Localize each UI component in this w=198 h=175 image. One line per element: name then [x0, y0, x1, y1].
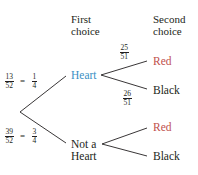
- header-second-choice: Second choice: [153, 13, 185, 37]
- prob-not-heart-fraction: 39 52: [5, 128, 14, 145]
- prob-heart-red: 25 51: [120, 44, 129, 61]
- branch-notheart-black: [102, 144, 147, 156]
- node-notheart-red: Red: [153, 121, 172, 133]
- branch-notheart-red: [102, 128, 147, 144]
- denominator: 52: [6, 82, 14, 90]
- prob-heart-black: 26 51: [123, 90, 132, 107]
- prob-not-heart-simplified: 3 4: [32, 128, 37, 145]
- node-not-heart-line2: Heart: [71, 150, 97, 162]
- denominator: 51: [124, 99, 132, 107]
- header-first-line1: First: [71, 13, 100, 25]
- node-heart-red: Red: [153, 55, 172, 67]
- denominator: 52: [6, 137, 14, 145]
- header-second-line1: Second: [153, 13, 185, 25]
- equals-sign: =: [20, 76, 25, 86]
- header-first-choice: First choice: [71, 13, 100, 37]
- node-heart-black: Black: [153, 84, 180, 96]
- branch-root-not-heart: [20, 112, 66, 143]
- node-not-heart: Not a Heart: [71, 138, 97, 162]
- branch-heart-red: [101, 61, 147, 75]
- header-second-line2: choice: [153, 25, 185, 37]
- denominator: 4: [33, 137, 37, 145]
- prob-heart-fraction: 13 52: [5, 73, 14, 90]
- node-heart: Heart: [71, 69, 97, 81]
- equals-sign: =: [20, 131, 25, 141]
- node-notheart-black: Black: [153, 150, 180, 162]
- prob-heart-simplified: 1 4: [32, 73, 37, 90]
- node-not-heart-line1: Not a: [71, 138, 97, 150]
- branch-root-heart: [20, 76, 66, 112]
- header-first-line2: choice: [71, 25, 100, 37]
- branch-heart-black: [101, 75, 147, 89]
- denominator: 51: [121, 53, 129, 61]
- denominator: 4: [33, 82, 37, 90]
